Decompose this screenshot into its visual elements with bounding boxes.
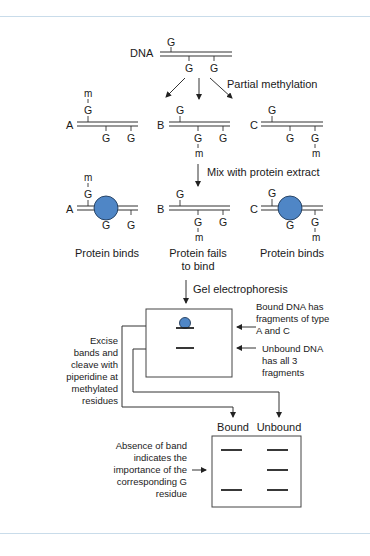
fragment-c-label: C [250,119,258,131]
svg-text:G: G [219,132,227,144]
fragment-c-bound: C G G G m [250,187,323,243]
svg-text:G: G [286,219,294,231]
svg-text:indicates the: indicates the [134,452,187,463]
svg-text:Bound DNA has: Bound DNA has [256,301,324,312]
dna-g-bottom-1: G [185,62,193,74]
svg-text:corresponding G: corresponding G [117,476,187,487]
methylation-arrows: Partial methylation [166,78,318,99]
excise-note: Excise bands and cleave with piperidine … [66,335,118,406]
lane-unbound-label: Unbound [257,421,302,433]
outcome-b-line2: to bind [181,260,214,272]
svg-text:G: G [286,132,294,144]
svg-text:m: m [312,232,320,243]
svg-text:G: G [102,132,110,144]
svg-text:G: G [84,104,92,116]
svg-text:G: G [194,132,202,144]
starting-dna: DNA G G G [130,36,232,74]
gel-1-bound-note: Bound DNA has fragments of type A and C [256,301,329,336]
protein-icon [278,196,302,220]
svg-text:residue: residue [156,488,187,499]
svg-text:G: G [194,216,202,228]
svg-text:m: m [84,88,92,99]
svg-text:piperidine at: piperidine at [66,371,118,382]
svg-text:B: B [157,203,164,215]
svg-text:G: G [176,104,184,116]
fragment-a-label: A [66,119,74,131]
svg-text:m: m [312,148,320,159]
fragment-c-methylated: C G G G m [250,104,323,159]
dna-g-top: G [167,36,175,48]
svg-text:A and C: A and C [256,325,290,336]
svg-text:bands and: bands and [74,347,118,358]
dna-g-bottom-2: G [210,62,218,74]
svg-text:m: m [195,148,203,159]
svg-text:Unbound DNA: Unbound DNA [262,343,324,354]
svg-text:G: G [127,219,135,231]
mix-step-label: Mix with protein extract [207,166,319,178]
svg-text:Absence of band: Absence of band [116,440,187,451]
fragment-b-label: B [157,119,164,131]
gel-step: Gel electrophoresis [186,280,288,303]
dmethylation-interference-diagram: DNA G G G Partial methylation A m G G G … [0,0,370,556]
svg-text:G: G [268,104,276,116]
protein-icon [94,196,118,220]
svg-text:C: C [250,203,258,215]
gel-step-label: Gel electrophoresis [193,283,288,295]
svg-text:G: G [102,219,110,231]
outcome-b-line1: Protein fails [169,247,227,259]
svg-text:G: G [311,216,319,228]
gel-1-unbound-note: Unbound DNA has all 3 fragments [262,343,324,378]
svg-text:A: A [66,203,74,215]
svg-text:m: m [195,232,203,243]
gel-1 [146,309,256,377]
fragment-b-unbound: B G G m G [157,188,230,243]
svg-text:G: G [268,187,276,199]
svg-text:G: G [311,132,319,144]
svg-text:fragments: fragments [262,367,304,378]
gel-2-note: Absence of band indicates the importance… [114,440,187,499]
mix-step: Mix with protein extract [198,164,319,186]
fragment-b-methylated: B G G m G [157,104,230,159]
fragment-a-methylated: A m G G G [66,88,138,144]
outcome-a: Protein binds [75,247,140,259]
methylation-step-label: Partial methylation [227,78,318,90]
outcome-c: Protein binds [260,247,325,259]
bound-protein-icon [180,318,191,329]
fragment-a-bound: A m G G G [66,172,138,231]
binding-outcomes: Protein binds Protein fails to bind Prot… [75,247,325,272]
dna-label: DNA [130,47,154,59]
svg-text:Excise: Excise [90,335,118,346]
svg-text:m: m [84,172,92,183]
svg-text:G: G [176,188,184,200]
svg-text:cleave with: cleave with [71,359,118,370]
svg-text:fragments of type: fragments of type [256,313,329,324]
svg-text:methylated: methylated [72,383,118,394]
lane-bound-label: Bound [217,421,249,433]
gel-2: Bound Unbound [192,421,301,507]
svg-text:G: G [127,132,135,144]
svg-text:G: G [84,188,92,200]
svg-text:residues: residues [82,395,118,406]
svg-text:importance of the: importance of the [114,464,187,475]
svg-text:G: G [219,216,227,228]
svg-text:has all 3: has all 3 [262,355,297,366]
